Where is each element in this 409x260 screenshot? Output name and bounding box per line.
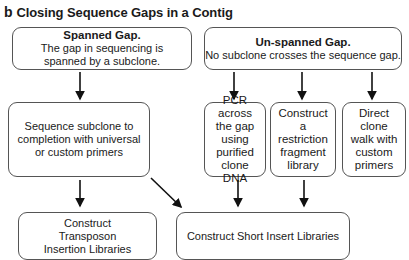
node-short-insert-libraries: Construct Short Insert Libraries (176, 212, 350, 260)
node-heading: Spanned Gap. (63, 29, 140, 42)
node-body: The gap in sequencing is spanned by a su… (13, 42, 191, 68)
node-restriction-library: Construct a restriction fragment library (270, 102, 336, 177)
node-text: Construct Transposon Insertion Libraries (37, 217, 138, 256)
node-text: Construct Short Insert Libraries (187, 230, 339, 243)
node-spanned-gap: Spanned Gap. The gap in sequencing is sp… (12, 27, 192, 70)
node-text: Direct clone walk with custom primers (349, 107, 399, 172)
node-clone-walk: Direct clone walk with custom primers (342, 102, 406, 177)
node-sequence-subclone: Sequence subclone to completion with uni… (8, 102, 150, 177)
node-body: No subclone crosses the sequence gap. (205, 49, 401, 62)
arrow-sequence-to-shortinsert (151, 178, 181, 207)
node-unspanned-gap: Un-spanned Gap. No subclone crosses the … (204, 27, 402, 70)
node-text: Construct a restriction fragment library (275, 107, 331, 172)
node-text: PCR across the gap using purified clone … (209, 94, 261, 185)
node-transposon-libraries: Construct Transposon Insertion Libraries (18, 212, 157, 260)
node-text: Sequence subclone to completion with uni… (17, 120, 141, 159)
node-pcr: PCR across the gap using purified clone … (204, 102, 266, 177)
node-heading: Un-spanned Gap. (255, 36, 350, 49)
